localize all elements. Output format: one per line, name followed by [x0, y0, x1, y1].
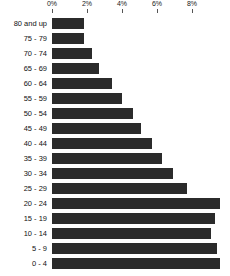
- bar-track: [52, 123, 230, 134]
- bar: [52, 93, 122, 104]
- x-axis-tick-mark: [52, 9, 53, 13]
- bar-row: 40 - 44: [0, 136, 230, 151]
- bar: [52, 183, 187, 194]
- population-pyramid-chart: 0%2%4%6%8% 80 and up75 - 7970 - 7465 - 6…: [0, 0, 230, 276]
- bar: [52, 138, 152, 149]
- x-axis-tick-label: 8%: [187, 0, 197, 8]
- bar-track: [52, 63, 230, 74]
- category-label: 10 - 14: [0, 228, 47, 239]
- bar-row: 20 - 24: [0, 196, 230, 211]
- x-axis-tick-mark: [87, 9, 88, 13]
- bar-row: 30 - 34: [0, 166, 230, 181]
- x-axis-tick-label: 4%: [117, 0, 127, 8]
- category-label: 30 - 34: [0, 168, 47, 179]
- bar-row: 5 - 9: [0, 241, 230, 256]
- bar-rows: 80 and up75 - 7970 - 7465 - 6960 - 6455 …: [0, 16, 230, 271]
- category-label: 15 - 19: [0, 213, 47, 224]
- bar-track: [52, 198, 230, 209]
- category-label: 25 - 29: [0, 183, 47, 194]
- bar: [52, 108, 133, 119]
- x-axis-tick-mark: [157, 9, 158, 13]
- bar-row: 0 - 4: [0, 256, 230, 271]
- x-axis: 0%2%4%6%8%: [0, 0, 230, 16]
- bar-track: [52, 48, 230, 59]
- category-label: 40 - 44: [0, 138, 47, 149]
- bar-track: [52, 108, 230, 119]
- category-label: 70 - 74: [0, 48, 47, 59]
- bar-row: 65 - 69: [0, 61, 230, 76]
- category-label: 35 - 39: [0, 153, 47, 164]
- bar: [52, 78, 112, 89]
- bar-track: [52, 153, 230, 164]
- category-label: 55 - 59: [0, 93, 47, 104]
- bar-track: [52, 78, 230, 89]
- bar-row: 80 and up: [0, 16, 230, 31]
- x-axis-tick-label: 0%: [47, 0, 57, 8]
- bar: [52, 243, 217, 254]
- bar: [52, 63, 99, 74]
- bar: [52, 48, 92, 59]
- bar: [52, 18, 84, 29]
- bar: [52, 258, 220, 269]
- bar-row: 55 - 59: [0, 91, 230, 106]
- bar-track: [52, 18, 230, 29]
- x-axis-tick-mark: [192, 9, 193, 13]
- category-label: 20 - 24: [0, 198, 47, 209]
- bar-track: [52, 213, 230, 224]
- category-label: 80 and up: [0, 18, 47, 29]
- bar-row: 15 - 19: [0, 211, 230, 226]
- bar: [52, 33, 84, 44]
- bar-track: [52, 228, 230, 239]
- bar-track: [52, 243, 230, 254]
- bar: [52, 153, 162, 164]
- bar-track: [52, 93, 230, 104]
- bar-track: [52, 183, 230, 194]
- category-label: 65 - 69: [0, 63, 47, 74]
- bar-row: 35 - 39: [0, 151, 230, 166]
- bar-row: 60 - 64: [0, 76, 230, 91]
- category-label: 50 - 54: [0, 108, 47, 119]
- bar-row: 70 - 74: [0, 46, 230, 61]
- bar-row: 25 - 29: [0, 181, 230, 196]
- bar-row: 10 - 14: [0, 226, 230, 241]
- category-label: 0 - 4: [0, 258, 47, 269]
- bar-track: [52, 258, 230, 269]
- bar-row: 75 - 79: [0, 31, 230, 46]
- category-label: 60 - 64: [0, 78, 47, 89]
- bar: [52, 123, 141, 134]
- bar-track: [52, 33, 230, 44]
- bar: [52, 213, 215, 224]
- category-label: 5 - 9: [0, 243, 47, 254]
- category-label: 45 - 49: [0, 123, 47, 134]
- bar-track: [52, 168, 230, 179]
- x-axis-tick-label: 6%: [152, 0, 162, 8]
- category-label: 75 - 79: [0, 33, 47, 44]
- bar: [52, 168, 173, 179]
- bar-row: 45 - 49: [0, 121, 230, 136]
- bar-row: 50 - 54: [0, 106, 230, 121]
- x-axis-tick-mark: [122, 9, 123, 13]
- x-axis-tick-label: 2%: [82, 0, 92, 8]
- bar: [52, 228, 211, 239]
- bar: [52, 198, 220, 209]
- bar-track: [52, 138, 230, 149]
